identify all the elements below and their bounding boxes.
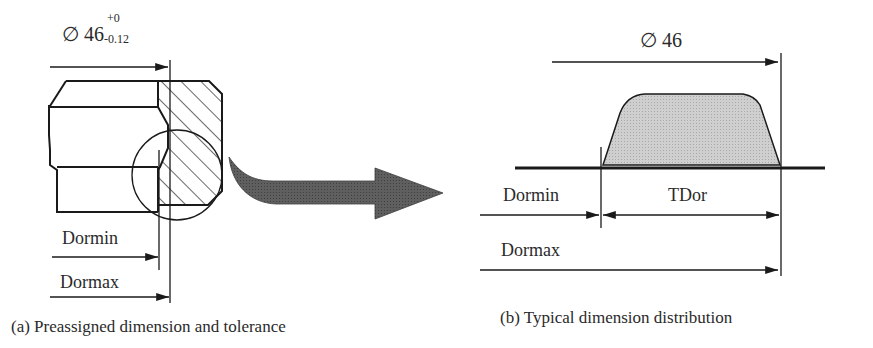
dormin-label-b: Dormin (503, 186, 559, 204)
hatched-section (158, 81, 222, 205)
dormax-label-a: Dormax (60, 273, 119, 291)
transition-arrow (229, 157, 443, 219)
distribution-curve (603, 94, 780, 165)
tolerance-lower: -0.12 (104, 33, 129, 45)
tolerance-upper: +0 (107, 12, 120, 24)
part-cross-section (48, 60, 222, 303)
nominal-dimension-b: ∅ 46 (640, 30, 682, 50)
diameter-symbol: ∅ (62, 23, 79, 45)
dormax-label-b: Dormax (501, 241, 560, 259)
diameter-value: 46 (84, 23, 104, 45)
tdor-label: TDor (668, 186, 707, 204)
dormin-label-a: Dormin (62, 229, 118, 247)
caption-b: (b) Typical dimension distribution (500, 309, 732, 326)
diagram-canvas (0, 0, 873, 348)
diameter-dimension-a: ∅ 46 (62, 24, 104, 44)
caption-a: (a) Preassigned dimension and tolerance (11, 318, 286, 335)
